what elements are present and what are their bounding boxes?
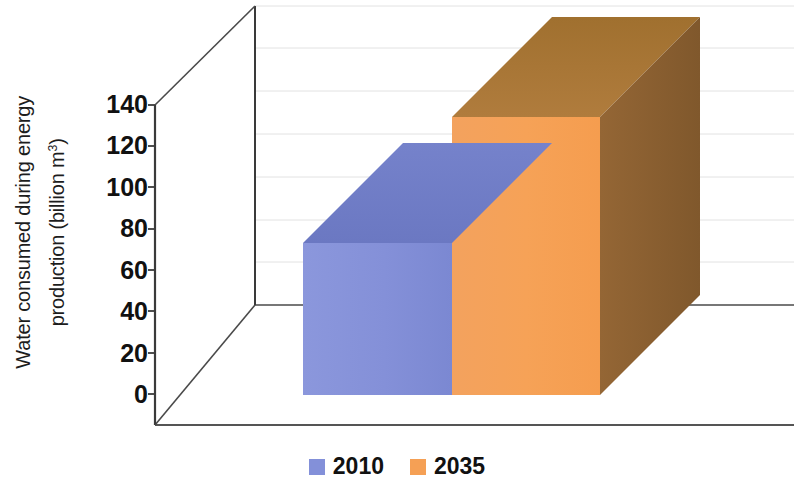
legend-item-2010[interactable]: 2010 (309, 455, 384, 478)
chart-legend: 2010 2035 (0, 455, 794, 478)
legend-label: 2035 (434, 455, 485, 478)
legend-swatch-icon (309, 459, 325, 475)
plot-area (0, 0, 794, 490)
bar-chart: Water consumed during energy production … (0, 0, 794, 490)
legend-item-2035[interactable]: 2035 (410, 455, 485, 478)
legend-swatch-icon (410, 459, 426, 475)
bar-2010-front-face (303, 243, 452, 395)
left-wall-top-edge (155, 6, 255, 105)
legend-label: 2010 (333, 455, 384, 478)
